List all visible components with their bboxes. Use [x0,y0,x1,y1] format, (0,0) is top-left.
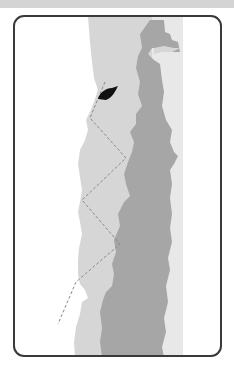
top-bar [0,0,234,8]
map-card [13,15,222,357]
coastline-map [15,17,220,355]
